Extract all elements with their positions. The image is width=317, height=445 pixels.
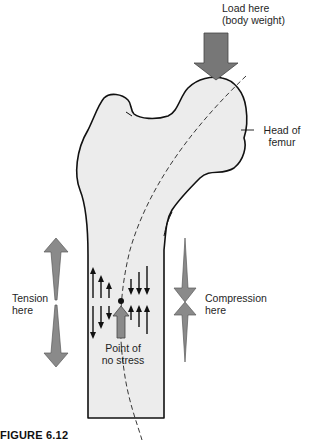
tension-label: Tension here bbox=[12, 292, 48, 316]
compression-label-line2: here bbox=[205, 304, 267, 316]
no-stress-label-line2: no stress bbox=[98, 354, 148, 366]
compression-arrow-icon bbox=[174, 238, 196, 362]
no-stress-label-line1: Point of bbox=[98, 342, 148, 354]
head-label-line2: femur bbox=[256, 136, 308, 148]
compression-label-line1: Compression bbox=[205, 292, 267, 304]
femur-outline bbox=[77, 77, 247, 418]
no-stress-label: Point of no stress bbox=[98, 342, 148, 366]
load-label-line1: Load here bbox=[222, 2, 285, 14]
compression-label: Compression here bbox=[205, 292, 267, 316]
head-label-line1: Head of bbox=[256, 124, 308, 136]
load-label-line2: (body weight) bbox=[222, 14, 285, 26]
neutral-point-dot bbox=[118, 298, 124, 304]
tension-label-line2: here bbox=[12, 304, 48, 316]
load-arrow-icon bbox=[194, 33, 238, 80]
load-label: Load here (body weight) bbox=[222, 2, 285, 26]
tension-label-line1: Tension bbox=[12, 292, 48, 304]
figure-caption: FIGURE 6.12 bbox=[0, 429, 68, 441]
femur-stress-diagram bbox=[0, 0, 317, 445]
head-of-femur-label: Head of femur bbox=[256, 124, 308, 148]
